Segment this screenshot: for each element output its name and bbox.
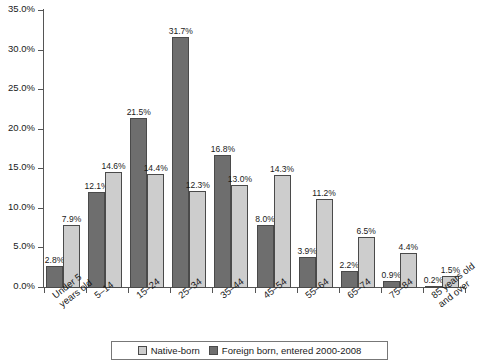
bar-group: 12.1%14.6% bbox=[86, 11, 128, 288]
bar-group: 0.2%1.5% bbox=[423, 11, 465, 288]
bar-pair: 8.0%14.3% bbox=[257, 11, 291, 288]
y-axis-tick-label: 10.0% bbox=[8, 201, 35, 212]
bar-value-label: 14.3% bbox=[270, 164, 294, 174]
bar[interactable] bbox=[231, 185, 248, 288]
y-axis-tick-label: 0.0% bbox=[13, 280, 35, 291]
bar-value-label: 11.2% bbox=[312, 188, 335, 198]
bar-column[interactable]: 1.5% bbox=[442, 11, 459, 288]
chart-legend: Native-bornForeign born, entered 2000-20… bbox=[111, 341, 388, 360]
y-axis-tick-mark bbox=[38, 208, 43, 209]
bar-column[interactable]: 12.3% bbox=[189, 11, 206, 288]
y-axis-tick-mark bbox=[38, 10, 43, 11]
bar-column[interactable]: 0.9% bbox=[383, 11, 400, 288]
y-axis-tick-label: 20.0% bbox=[8, 122, 35, 133]
legend-item[interactable]: Foreign born, entered 2000-2008 bbox=[209, 345, 361, 356]
y-axis-tick-label: 35.0% bbox=[8, 3, 35, 14]
bar-value-label: 12.3% bbox=[186, 180, 210, 190]
bar-pair: 12.1%14.6% bbox=[88, 11, 122, 288]
bar-pair: 2.8%7.9% bbox=[46, 11, 80, 288]
bar[interactable] bbox=[88, 192, 105, 288]
y-axis-tick-mark bbox=[38, 50, 43, 51]
bar-column[interactable]: 14.6% bbox=[105, 11, 122, 288]
bar-column[interactable]: 21.5% bbox=[130, 11, 147, 288]
bar-value-label: 14.6% bbox=[102, 161, 126, 171]
bar-group: 2.2%6.5% bbox=[339, 11, 381, 288]
legend-label: Native-born bbox=[151, 345, 200, 356]
y-axis-tick-mark bbox=[38, 287, 43, 288]
bar-pair: 16.8%13.0% bbox=[214, 11, 248, 288]
bar-pair: 3.9%11.2% bbox=[299, 11, 333, 288]
bar-value-label: 14.4% bbox=[144, 163, 168, 173]
bar[interactable] bbox=[189, 191, 206, 288]
bar-value-label: 6.5% bbox=[357, 226, 376, 236]
legend-swatch-light bbox=[138, 346, 147, 355]
y-axis-tick-mark bbox=[38, 247, 43, 248]
bar-group: 2.8%7.9% bbox=[44, 11, 86, 288]
bar-value-label: 4.4% bbox=[399, 242, 418, 252]
bar-value-label: 13.0% bbox=[228, 174, 252, 184]
bar-column[interactable]: 6.5% bbox=[358, 11, 375, 288]
bar-group: 31.7%12.3% bbox=[170, 11, 212, 288]
bar[interactable] bbox=[172, 37, 189, 288]
bar-column[interactable]: 8.0% bbox=[257, 11, 274, 288]
bar[interactable] bbox=[147, 174, 164, 288]
bar[interactable] bbox=[130, 118, 147, 288]
bar-value-label: 2.8% bbox=[45, 255, 64, 265]
y-axis-tick-mark bbox=[38, 168, 43, 169]
bar-pair: 31.7%12.3% bbox=[172, 11, 206, 288]
bar-column[interactable]: 0.2% bbox=[425, 11, 442, 288]
bar-column[interactable]: 14.4% bbox=[147, 11, 164, 288]
bar-column[interactable]: 3.9% bbox=[299, 11, 316, 288]
bar-column[interactable]: 11.2% bbox=[316, 11, 333, 288]
bar-column[interactable]: 12.1% bbox=[88, 11, 105, 288]
bar-pair: 0.2%1.5% bbox=[425, 11, 459, 288]
bar-group: 8.0%14.3% bbox=[255, 11, 297, 288]
bar-column[interactable]: 31.7% bbox=[172, 11, 189, 288]
bar-groups: 2.8%7.9%12.1%14.6%21.5%14.4%31.7%12.3%16… bbox=[44, 10, 465, 288]
bar-pair: 2.2%6.5% bbox=[341, 11, 375, 288]
bar-column[interactable]: 14.3% bbox=[274, 11, 291, 288]
bar-value-label: 3.9% bbox=[297, 246, 316, 256]
bar-value-label: 8.0% bbox=[255, 214, 274, 224]
bar-column[interactable]: 4.4% bbox=[400, 11, 417, 288]
bar-column[interactable]: 2.2% bbox=[341, 11, 358, 288]
legend-item[interactable]: Native-born bbox=[138, 345, 200, 356]
bar-column[interactable]: 16.8% bbox=[214, 11, 231, 288]
bar-column[interactable]: 7.9% bbox=[63, 11, 80, 288]
bar-pair: 0.9%4.4% bbox=[383, 11, 417, 288]
y-axis-tick-label: 30.0% bbox=[8, 43, 35, 54]
bar-group: 3.9%11.2% bbox=[297, 11, 339, 288]
bar[interactable] bbox=[257, 225, 274, 288]
bar-value-label: 7.9% bbox=[62, 214, 81, 224]
y-axis-tick-label: 25.0% bbox=[8, 82, 35, 93]
bar-value-label: 2.2% bbox=[340, 260, 359, 270]
bar[interactable] bbox=[105, 172, 122, 288]
bar-pair: 21.5%14.4% bbox=[130, 11, 164, 288]
legend-swatch-dark bbox=[209, 346, 218, 355]
bar-group: 16.8%13.0% bbox=[212, 11, 254, 288]
bar-group-end-marker bbox=[465, 11, 466, 288]
y-axis-tick-mark bbox=[38, 129, 43, 130]
bar[interactable] bbox=[274, 175, 291, 288]
bar-column[interactable]: 13.0% bbox=[231, 11, 248, 288]
y-axis-tick-label: 15.0% bbox=[8, 161, 35, 172]
bar-value-label: 0.9% bbox=[382, 270, 401, 280]
bar[interactable] bbox=[316, 199, 333, 288]
legend-label: Foreign born, entered 2000-2008 bbox=[222, 345, 361, 356]
y-axis-tick-label: 5.0% bbox=[13, 240, 35, 251]
bar-group: 21.5%14.4% bbox=[128, 11, 170, 288]
bar-column[interactable]: 2.8% bbox=[46, 11, 63, 288]
y-axis-tick-mark bbox=[38, 89, 43, 90]
bar-group: 0.9%4.4% bbox=[381, 11, 423, 288]
